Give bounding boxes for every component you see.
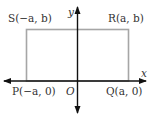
- vertex-p-label: P(−a, 0): [12, 85, 56, 97]
- vertex-r-label: R(a, b): [108, 12, 144, 24]
- coordinate-diagram: y x O S(−a, b) R(a, b) Q(a, 0) P(−a, 0): [0, 0, 156, 117]
- y-axis-label: y: [67, 6, 75, 18]
- x-axis-label: x: [141, 67, 147, 79]
- vertex-s-label: S(−a, b): [8, 12, 52, 24]
- vertex-q-label: Q(a, 0): [106, 85, 142, 97]
- origin-label: O: [66, 85, 75, 97]
